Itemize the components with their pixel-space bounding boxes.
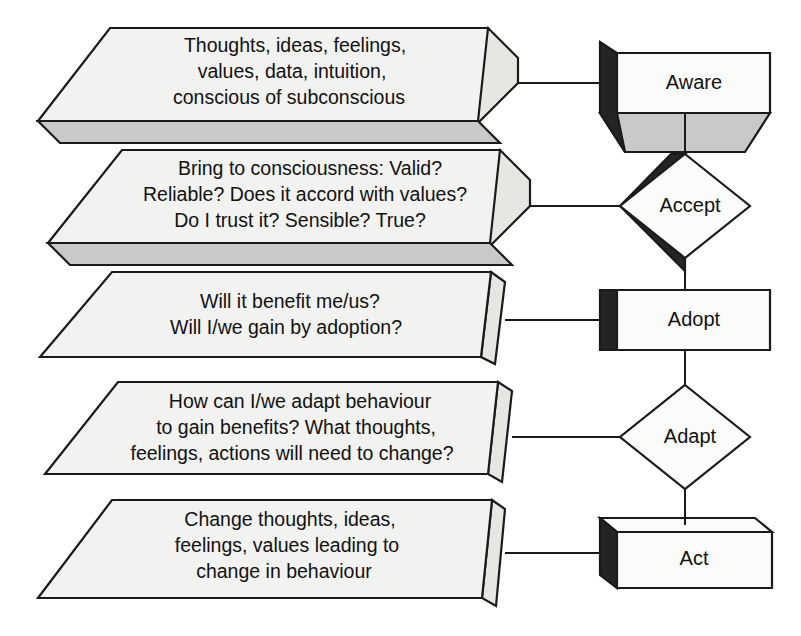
- stage-adopt: Will it benefit me/us? Will I/we gain by…: [40, 272, 770, 364]
- accept-description-line-2: Do I trust it? Sensible? True?: [174, 209, 426, 231]
- aware-description-line-2: conscious of subconscious: [173, 86, 405, 108]
- accept-description-shape[interactable]: Bring to consciousness: Valid? Reliable?…: [48, 150, 530, 265]
- aware-description-text: Thoughts, ideas, feelings, values, data,…: [173, 34, 406, 108]
- flowchart-diagram: Thoughts, ideas, feelings, values, data,…: [0, 0, 801, 636]
- adopt-description-face: [40, 272, 491, 357]
- act-description-line-0: Change thoughts, ideas,: [184, 508, 395, 530]
- adopt-node-label: Adopt: [668, 308, 721, 330]
- act-description-line-2: change in behaviour: [196, 560, 372, 582]
- act-description-line-1: feelings, values leading to: [175, 534, 400, 556]
- stage-aware: Thoughts, ideas, feelings, values, data,…: [38, 28, 770, 152]
- accept-node[interactable]: Accept: [620, 154, 750, 271]
- aware-description-line-1: values, data, intuition,: [198, 60, 387, 82]
- adapt-description-line-0: How can I/we adapt behaviour: [169, 390, 432, 412]
- adopt-description-line-1: Will I/we gain by adoption?: [170, 316, 402, 338]
- adopt-description-line-0: Will it benefit me/us?: [200, 290, 380, 312]
- adopt-node-left-face: [600, 290, 617, 350]
- flowchart-canvas: Thoughts, ideas, feelings, values, data,…: [0, 0, 801, 636]
- aware-description-bottom-face: [38, 121, 500, 143]
- adapt-description-text: How can I/we adapt behaviour to gain ben…: [130, 390, 453, 464]
- accept-description-text: Bring to consciousness: Valid? Reliable?…: [143, 157, 467, 231]
- act-node-left-face: [600, 518, 617, 588]
- aware-description-line-0: Thoughts, ideas, feelings,: [184, 34, 406, 56]
- act-node-label: Act: [680, 547, 709, 569]
- act-description-text: Change thoughts, ideas, feelings, values…: [175, 508, 400, 582]
- accept-node-label: Accept: [659, 194, 721, 216]
- aware-description-shape[interactable]: Thoughts, ideas, feelings, values, data,…: [38, 28, 518, 143]
- stage-accept: Bring to consciousness: Valid? Reliable?…: [48, 150, 750, 271]
- act-description-shape[interactable]: Change thoughts, ideas, feelings, values…: [38, 500, 505, 606]
- stage-adapt: How can I/we adapt behaviour to gain ben…: [45, 382, 750, 489]
- adopt-description-shape[interactable]: Will it benefit me/us? Will I/we gain by…: [40, 272, 505, 364]
- accept-description-bottom-face: [48, 243, 512, 265]
- aware-node-label: Aware: [666, 71, 722, 93]
- adapt-description-shape[interactable]: How can I/we adapt behaviour to gain ben…: [45, 382, 512, 482]
- adapt-description-line-2: feelings, actions will need to change?: [130, 442, 453, 464]
- accept-description-line-1: Reliable? Does it accord with values?: [143, 183, 467, 205]
- adapt-description-line-1: to gain benefits? What thoughts,: [156, 416, 436, 438]
- adapt-node-label: Adapt: [664, 425, 717, 447]
- adopt-node[interactable]: Adopt: [600, 290, 770, 350]
- accept-description-line-0: Bring to consciousness: Valid?: [178, 157, 442, 179]
- adapt-node[interactable]: Adapt: [620, 385, 750, 489]
- stage-act: Change thoughts, ideas, feelings, values…: [38, 500, 772, 606]
- act-node[interactable]: Act: [600, 518, 772, 588]
